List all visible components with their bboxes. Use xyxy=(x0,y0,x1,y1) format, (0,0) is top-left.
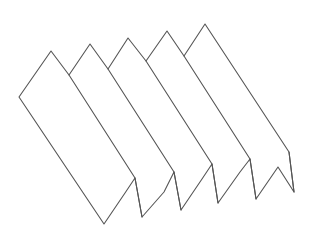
folded-paper xyxy=(19,24,294,224)
fold-edge-8 xyxy=(250,159,256,199)
paper-outline xyxy=(19,24,294,224)
folded-paper-diagram xyxy=(0,0,328,240)
fold-edge-4 xyxy=(184,56,250,159)
fold-edge-6 xyxy=(174,172,181,210)
fold-edge-3 xyxy=(146,61,212,164)
fold-edge-1 xyxy=(69,75,135,178)
fold-edge-2 xyxy=(108,69,174,172)
fold-edge-7 xyxy=(212,164,218,203)
fold-edge-5 xyxy=(135,178,142,217)
